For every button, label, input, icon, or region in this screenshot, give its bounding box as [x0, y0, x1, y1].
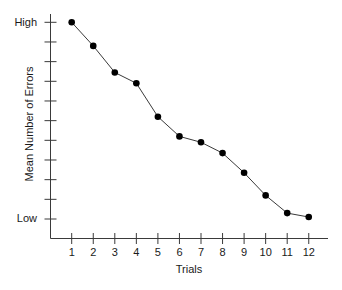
x-tick-label: 7 — [198, 246, 204, 258]
y-label-high: High — [14, 16, 37, 28]
data-point — [90, 43, 97, 50]
x-tick-label: 5 — [155, 246, 161, 258]
axes — [45, 14, 329, 244]
x-tick-labels: 123456789101112 — [69, 246, 315, 258]
x-tick-label: 8 — [219, 246, 225, 258]
x-tick-label: 6 — [176, 246, 182, 258]
x-tick-label: 2 — [90, 246, 96, 258]
data-point — [133, 80, 140, 87]
data-point — [176, 133, 183, 140]
x-tick-label: 1 — [69, 246, 75, 258]
data-point — [262, 192, 269, 199]
x-axis-title: Trials — [176, 263, 203, 275]
data-point — [68, 19, 75, 26]
data-point — [219, 150, 226, 157]
data-point — [112, 69, 119, 76]
data-point — [241, 169, 248, 176]
line-chart: High Low 123456789101112 Trials Mean Num… — [0, 0, 342, 290]
data-points — [68, 19, 312, 220]
data-point — [198, 139, 205, 146]
x-tick-label: 12 — [303, 246, 315, 258]
data-line — [72, 22, 309, 217]
x-tick-label: 4 — [133, 246, 139, 258]
x-tick-label: 10 — [260, 246, 272, 258]
y-label-low: Low — [17, 212, 37, 224]
x-tick-label: 3 — [112, 246, 118, 258]
data-point — [284, 210, 291, 217]
y-axis-title: Mean Number of Errors — [23, 66, 35, 181]
data-point — [155, 113, 162, 120]
x-tick-label: 11 — [281, 246, 292, 258]
x-tick-label: 9 — [241, 246, 247, 258]
data-point — [305, 214, 312, 221]
